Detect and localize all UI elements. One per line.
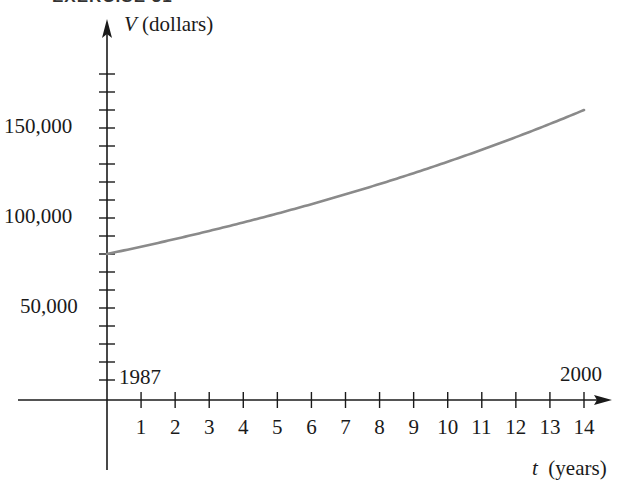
y-tick-label-50000: 50,000 [20,296,78,317]
y-tick-label-100000: 100,000 [4,206,72,227]
y-tick-label-150000: 150,000 [4,116,72,137]
x-axis-variable: t [532,456,538,480]
x-tick-label: 8 [374,417,385,438]
y-axis-label: V (dollars) [124,14,213,35]
y-axis-unit: (dollars) [137,12,213,36]
x-tick-label: 4 [238,417,249,438]
end-year-annotation: 2000 [560,364,602,385]
x-tick-label: 14 [574,417,595,438]
x-tick-label: 10 [437,417,458,438]
x-axis-unit: (years) [548,456,606,480]
x-tick-label: 5 [272,417,283,438]
x-tick-label: 12 [505,417,526,438]
y-axis-variable: V [124,12,137,36]
x-tick-label: 2 [170,417,181,438]
x-tick-label: 3 [204,417,215,438]
x-tick-label: 11 [471,417,491,438]
x-tick-label: 6 [306,417,317,438]
start-year-annotation: 1987 [119,367,161,388]
x-tick-label: 1 [136,417,147,438]
x-tick-label: 9 [408,417,419,438]
x-axis-label: t (years) [532,458,607,479]
x-tick-label: 7 [340,417,351,438]
axes [18,19,612,470]
x-tick-label: 13 [539,417,560,438]
value-curve [107,110,584,254]
chart-canvas [0,0,629,484]
